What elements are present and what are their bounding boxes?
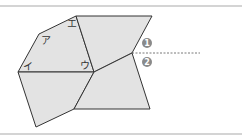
marker-two: 2: [144, 58, 150, 67]
label-e: エ: [67, 18, 77, 29]
label-a: ア: [41, 35, 51, 46]
label-u: ウ: [80, 60, 90, 71]
marker-one: 1: [144, 39, 150, 48]
label-i: イ: [23, 61, 33, 72]
net-diagram: エ ア イ ウ 1 2: [0, 0, 242, 138]
